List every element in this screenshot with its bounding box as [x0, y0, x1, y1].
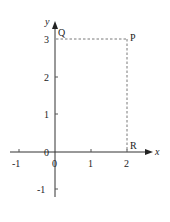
- y-axis: [52, 21, 58, 197]
- y-tick-label-2: 2: [44, 72, 49, 83]
- x-axis-arrow-icon: [145, 149, 153, 155]
- x-tick-label-neg1: -1: [12, 158, 20, 169]
- point-label-p: P: [130, 32, 136, 43]
- y-tick-label-0: 0: [44, 147, 49, 158]
- dashed-lines: [56, 39, 127, 151]
- x-tick-label-0: 0: [52, 158, 57, 169]
- y-tick-label-neg1: -1: [37, 184, 45, 195]
- y-tick-label-1: 1: [44, 109, 49, 120]
- x-tick-label-2: 2: [124, 158, 129, 169]
- y-tick-label-3: 3: [44, 34, 49, 45]
- x-axis-label: x: [154, 146, 160, 157]
- point-label-q: Q: [58, 27, 66, 38]
- coordinate-diagram: y x 3 2 1 0 -1 -1 0 1 2 Q P R: [0, 0, 170, 222]
- x-tick-label-1: 1: [88, 158, 93, 169]
- point-label-r: R: [130, 140, 137, 151]
- y-axis-label: y: [44, 16, 50, 27]
